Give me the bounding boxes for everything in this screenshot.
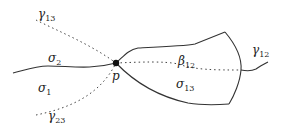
- label-sigma2: σ2: [48, 51, 61, 67]
- curve-sigma13-right: [225, 32, 241, 104]
- label-sigma1: σ1: [38, 81, 51, 97]
- curve-sigma1-sigma2-boundary: [13, 63, 116, 73]
- label-gamma12: γ12: [252, 43, 269, 59]
- label-gamma23: γ23: [48, 109, 65, 125]
- curve-sigma13-upper: [116, 32, 225, 63]
- diagram-canvas: γ13 σ2 σ1 γ23 p β12 σ13 γ12: [0, 0, 282, 128]
- label-gamma13: γ13: [38, 7, 55, 23]
- label-beta12: β12: [177, 54, 195, 70]
- label-sigma13: σ13: [176, 77, 194, 93]
- point-p: [113, 60, 119, 66]
- curve-gamma12: [241, 62, 268, 71]
- label-point-p: p: [112, 69, 120, 83]
- curve-sigma13-lower: [116, 63, 229, 105]
